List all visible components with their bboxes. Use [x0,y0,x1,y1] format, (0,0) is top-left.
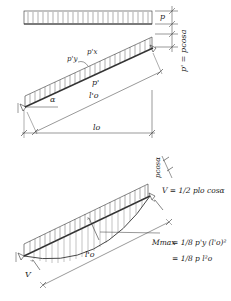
load-py-label: p'y [67,56,77,63]
inclined-span-label-bottom: l'o [85,251,95,259]
top-right-dimension [155,6,178,52]
load-px-label: p'x [87,49,97,56]
inclined-span-label-top: l'o [89,92,99,100]
reaction-right-label: V = 1/2 plo cosα [162,186,225,195]
moment-rhs-line1: = 1/8 p'y (l'o)² [172,238,226,247]
angle-alpha-label: α [50,96,55,104]
horizontal-load-block [24,11,152,24]
load-along-beam-label: p' [92,79,99,87]
load-height-pcos-label: pcosα [155,157,162,178]
reaction-left-label: V [25,271,31,279]
load-p-label: p [160,13,165,21]
horizontal-span-label: lo [93,124,100,132]
load-p-prime-formula-label: p' = pcosa [180,30,188,72]
inclined-beam-bottom [16,156,173,288]
moment-rhs-line2: = 1/8 p l²o [172,254,212,263]
